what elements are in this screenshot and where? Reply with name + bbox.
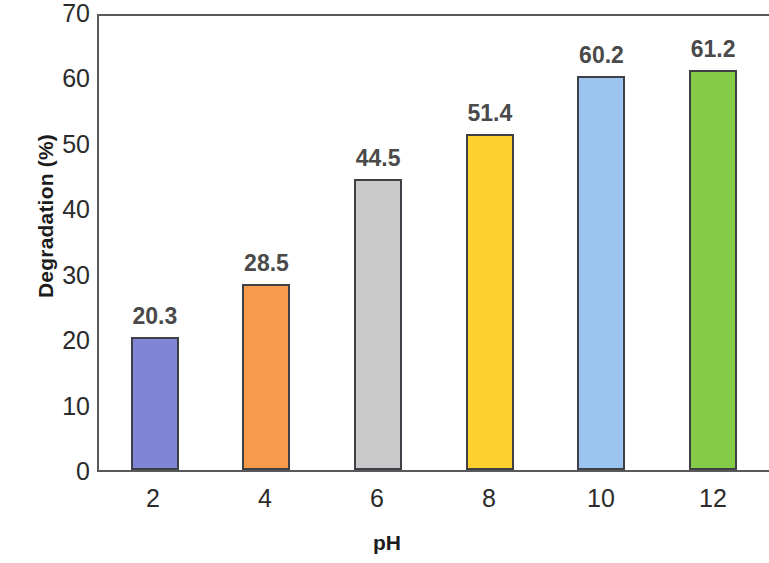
x-axis-tick-label: 6: [370, 486, 384, 511]
bar-value-label: 28.5: [244, 252, 289, 275]
bar-group: 28.5: [211, 16, 323, 470]
bar-value-label: 20.3: [132, 305, 177, 328]
bar-value-label: 60.2: [579, 44, 624, 67]
y-axis-tick-label: 60: [28, 66, 90, 91]
bar-value-label: 61.2: [691, 38, 736, 61]
y-axis-tick-label: 10: [28, 394, 90, 419]
y-axis-tick-labels: 010203040506070: [22, 0, 90, 563]
x-axis-title: pH: [97, 531, 677, 555]
bar[interactable]: [354, 179, 402, 470]
bar-group: 51.4: [434, 16, 546, 470]
x-axis-tick-label: 4: [258, 486, 272, 511]
bar-group: 60.2: [546, 16, 658, 470]
bar-group: 20.3: [99, 16, 211, 470]
x-axis-tick-label: 12: [699, 486, 727, 511]
y-axis-tick-label: 70: [28, 1, 90, 26]
bar-group: 44.5: [322, 16, 434, 470]
y-axis-tick-label: 40: [28, 197, 90, 222]
y-axis-tick-label: 20: [28, 328, 90, 353]
x-axis-tick-labels: 24681012: [97, 486, 769, 520]
bar[interactable]: [242, 284, 290, 470]
bar[interactable]: [131, 337, 179, 470]
bar-value-label: 44.5: [356, 147, 401, 170]
x-axis-tick-label: 10: [587, 486, 615, 511]
x-axis-tick-label: 2: [146, 486, 160, 511]
y-axis-tick-label: 0: [28, 459, 90, 484]
bar[interactable]: [577, 76, 625, 470]
bar-series: 20.328.544.551.460.261.2: [99, 16, 769, 470]
plot-area: 20.328.544.551.460.261.2: [97, 14, 769, 472]
bar-group: 61.2: [657, 16, 769, 470]
bar[interactable]: [689, 70, 737, 470]
bar[interactable]: [466, 134, 514, 470]
bar-value-label: 51.4: [467, 102, 512, 125]
x-axis-tick-label: 8: [482, 486, 496, 511]
y-axis-tick-label: 50: [28, 132, 90, 157]
y-axis-tick-label: 30: [28, 263, 90, 288]
